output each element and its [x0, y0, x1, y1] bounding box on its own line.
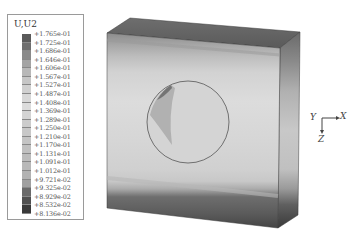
- model-viewport[interactable]: [0, 0, 357, 242]
- axis-y-label: Y: [310, 112, 316, 122]
- block-model: [107, 18, 300, 228]
- axis-triad: [320, 116, 340, 134]
- axis-z-label: Z: [318, 134, 324, 144]
- hole: [147, 81, 229, 163]
- axis-x-label: X: [340, 111, 346, 121]
- block-right-face: [278, 32, 300, 228]
